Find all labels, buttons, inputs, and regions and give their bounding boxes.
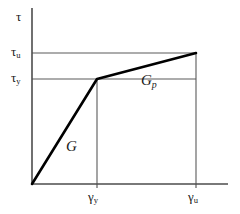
y-axis-label-text: τ	[16, 9, 21, 24]
bilinear-curve	[32, 53, 196, 184]
tau-u-subscript: u	[16, 50, 20, 60]
x-tick-label-gamma-u: γu	[188, 190, 198, 203]
x-tick-label-gamma-y: γy	[88, 190, 98, 203]
annotation-elastic-modulus: G	[66, 139, 77, 154]
y-axis-label: τ	[16, 10, 21, 23]
gamma-y-subscript: y	[94, 195, 98, 205]
y-tick-label-tau-u: τu	[11, 45, 21, 58]
plot-canvas	[0, 0, 240, 214]
tau-y-subscript: y	[16, 76, 20, 86]
shear-stress-strain-figure: τ τu τy γy γu G Gp	[0, 0, 240, 214]
gamma-y-base: γ	[88, 189, 94, 204]
elastic-modulus-base: G	[66, 138, 77, 154]
y-tick-label-tau-y: τy	[11, 71, 21, 84]
gamma-u-base: γ	[188, 189, 194, 204]
annotation-plastic-modulus: Gp	[141, 73, 157, 88]
plastic-modulus-base: G	[141, 72, 152, 88]
gamma-u-subscript: u	[194, 195, 198, 205]
plastic-modulus-subscript: p	[152, 79, 157, 90]
